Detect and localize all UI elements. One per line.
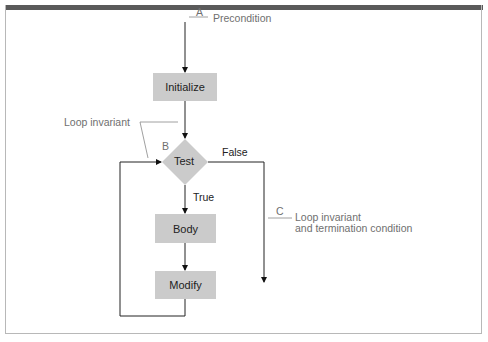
annotation-a-text: Precondition	[213, 12, 271, 24]
annotation-b-text: Loop invariant	[64, 116, 130, 128]
flowchart-lines	[0, 0, 488, 342]
annotation-c-text-2: and termination condition	[295, 222, 412, 234]
initialize-node: Initialize	[153, 73, 217, 101]
modify-node: Modify	[155, 271, 216, 299]
false-label: False	[222, 146, 248, 158]
annotation-c-marker: C	[276, 205, 284, 217]
annotation-b-marker: B	[162, 140, 169, 152]
true-label: True	[193, 191, 214, 203]
annotation-a-marker: A	[196, 6, 203, 18]
body-node: Body	[155, 214, 216, 243]
test-node-label: Test	[174, 155, 194, 167]
